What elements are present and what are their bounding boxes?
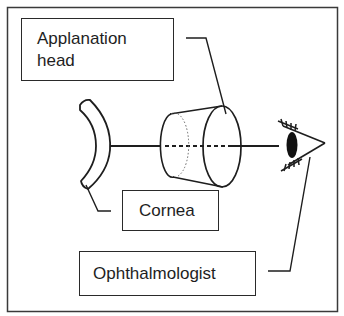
cornea-label: Cornea: [139, 200, 195, 221]
observer-eye-icon: [278, 119, 325, 171]
cornea-leader-line: [86, 185, 111, 211]
ophthalmologist-leader-line: [268, 157, 310, 271]
applanation-head-label-box: Applanation head: [21, 18, 174, 81]
cornea-icon: [80, 100, 110, 189]
ophthalmologist-label-box: Ophthalmologist: [79, 251, 256, 296]
applanation-head-label-line2: head: [37, 50, 75, 71]
tonometry-diagram: Applanation head Cornea Ophthalmologist: [0, 0, 344, 316]
applanation-head-label-line1: Applanation: [37, 28, 127, 49]
applanation-leader-line: [186, 38, 226, 114]
ophthalmologist-label: Ophthalmologist: [93, 263, 216, 284]
cornea-label-box: Cornea: [122, 190, 219, 231]
